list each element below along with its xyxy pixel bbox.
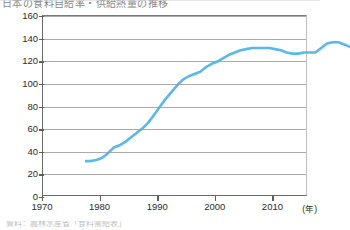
y-tick-mark: [39, 16, 44, 17]
x-axis-labels: 19701980199020002010: [0, 201, 320, 215]
gridline: [43, 107, 306, 108]
y-tick-label: 20: [27, 168, 38, 179]
y-tick-mark: [39, 39, 44, 40]
y-tick-mark: [39, 84, 44, 85]
y-tick-mark: [39, 107, 44, 108]
gridline: [43, 39, 306, 40]
y-tick-mark: [39, 61, 44, 62]
source-note-strip: 資料：農林水産省「食料需給表」: [0, 221, 320, 230]
y-tick-mark: [39, 174, 44, 175]
gridline: [43, 16, 306, 17]
chart-caption-strip: 日本の食料自給率・供給熱量の推移: [0, 0, 320, 11]
series-line-chart: [85, 31, 350, 212]
x-tick-label: 2010: [262, 201, 283, 212]
y-tick-label: 140: [22, 32, 38, 43]
y-tick-label: 120: [22, 55, 38, 66]
y-tick-mark: [39, 129, 44, 130]
x-axis-unit-label: (年): [302, 202, 317, 214]
y-tick-label: 40: [27, 145, 38, 156]
y-axis-labels: 020406080100120140160: [0, 15, 38, 196]
gridline: [43, 152, 306, 153]
gridline: [43, 84, 306, 85]
y-tick-label: 0: [33, 191, 38, 202]
x-tick-label: 1970: [31, 201, 52, 212]
y-tick-mark: [39, 152, 44, 153]
y-tick-label: 100: [22, 77, 38, 88]
chart-caption-text: 日本の食料自給率・供給熱量の推移: [2, 0, 168, 10]
y-tick-label: 160: [22, 10, 38, 21]
gridline: [43, 129, 306, 130]
series-polyline: [85, 42, 350, 161]
gridline: [43, 61, 306, 62]
x-tick-label: 2000: [204, 201, 225, 212]
y-tick-label: 60: [27, 123, 38, 134]
x-tick-label: 1980: [89, 201, 110, 212]
y-tick-label: 80: [27, 100, 38, 111]
plot-area: [42, 15, 307, 196]
source-note-text: 資料：農林水産省「食料需給表」: [6, 221, 126, 228]
caption-divider: [0, 0, 320, 1]
x-tick-label: 1990: [147, 201, 168, 212]
gridline: [43, 174, 306, 175]
